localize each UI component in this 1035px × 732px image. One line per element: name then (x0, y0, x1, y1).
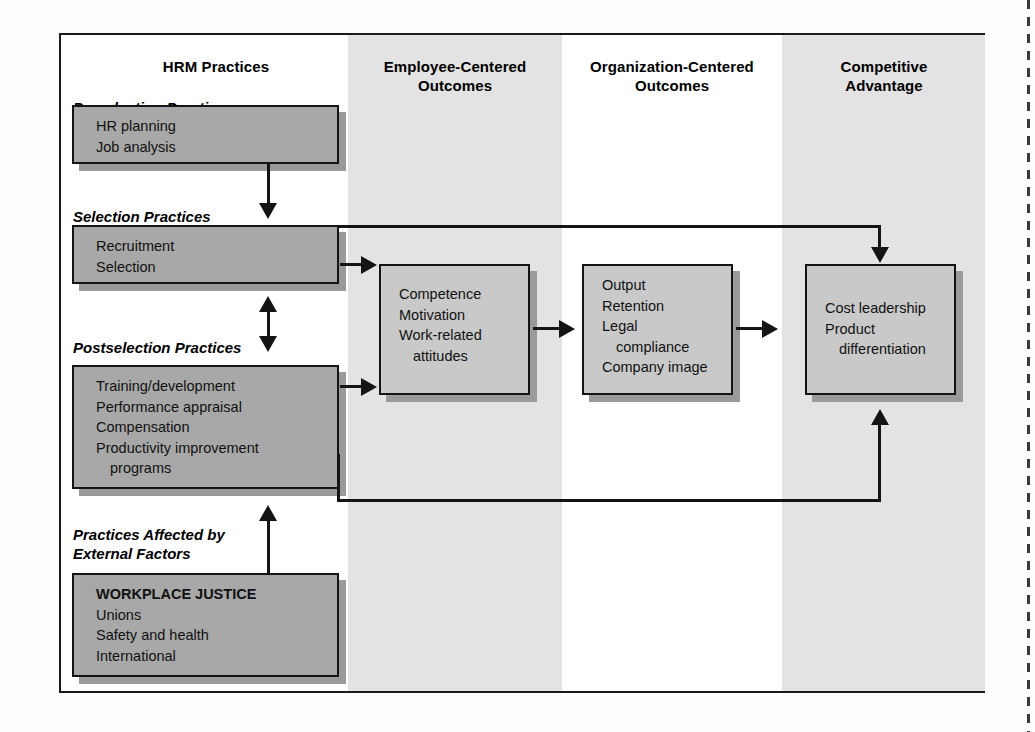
section-caption-selection: Selection Practices (73, 207, 211, 226)
column-heading-hrm: HRM Practices (91, 57, 341, 76)
column-heading-competitive-line2: Advantage (784, 76, 984, 95)
postselection-to-employee-arrowhead (361, 378, 377, 396)
organization-outcome-0: Output (602, 277, 646, 293)
column-heading-employee-line2: Outcomes (351, 76, 559, 95)
section-caption-postselection: Postselection Practices (73, 338, 241, 357)
preselection-to-selection-arrowhead (259, 203, 277, 219)
selection-item-1: Selection (96, 259, 156, 275)
employee-outcome-0: Competence (399, 286, 481, 302)
postselection-item-3: Productivity improvement (96, 440, 259, 456)
competitive-item-1: Product (825, 321, 875, 337)
postselection-to-competitive-up-line (878, 423, 881, 501)
postselection-to-competitive-bottom-line (337, 499, 881, 502)
postselection-item-1: Performance appraisal (96, 399, 242, 415)
selection-item-0: Recruitment (96, 238, 174, 254)
column-heading-employee: Employee-Centered Outcomes (351, 57, 559, 95)
organization-to-competitive-arrowhead (762, 320, 778, 338)
organization-outcome-3: compliance (602, 337, 725, 358)
organization-outcome-4: Company image (602, 359, 708, 375)
preselection-box[interactable]: HR planning Job analysis (72, 105, 339, 164)
section-caption-external: Practices Affected by External Factors (73, 525, 225, 563)
competitive-item-0: Cost leadership (825, 300, 926, 316)
selection-to-competitive-arrowhead (871, 247, 889, 263)
selection-to-employee-arrowhead (361, 256, 377, 274)
organization-outcome-1: Retention (602, 298, 664, 314)
external-item-0: Unions (96, 607, 141, 623)
organization-outcomes-box-text: Output Retention Legal compliance Compan… (602, 275, 725, 378)
employee-outcome-2: Work-related (399, 327, 482, 343)
postselection-to-competitive-down-line (337, 454, 340, 502)
external-to-postselection-arrowhead (259, 505, 277, 521)
external-item-1: Safety and health (96, 627, 209, 643)
organization-to-competitive-line (736, 327, 764, 330)
preselection-item-0: HR planning (96, 118, 176, 134)
postselection-item-4: programs (96, 458, 331, 479)
external-box-heading: WORKPLACE JUSTICE (96, 584, 331, 605)
external-item-2: International (96, 648, 176, 664)
employee-outcome-3: attitudes (399, 346, 522, 367)
competitive-item-2: differentiation (825, 339, 948, 360)
employee-outcomes-box[interactable]: Competence Motivation Work-related attit… (379, 264, 530, 395)
postselection-box-text: Training/development Performance apprais… (96, 376, 331, 479)
competitive-advantage-box-text: Cost leadership Product differentiation (825, 298, 948, 360)
selection-postselection-arrowhead-down (259, 336, 277, 352)
preselection-item-1: Job analysis (96, 139, 176, 155)
column-heading-organization-line1: Organization-Centered (564, 57, 780, 76)
column-heading-organization-line2: Outcomes (564, 76, 780, 95)
external-to-postselection-line (267, 519, 270, 573)
external-box-text: WORKPLACE JUSTICE Unions Safety and heal… (96, 584, 331, 666)
external-box[interactable]: WORKPLACE JUSTICE Unions Safety and heal… (72, 573, 339, 677)
preselection-box-text: HR planning Job analysis (96, 116, 331, 157)
competitive-advantage-box[interactable]: Cost leadership Product differentiation (805, 264, 956, 395)
selection-box-text: Recruitment Selection (96, 236, 331, 277)
organization-outcome-2: Legal (602, 318, 637, 334)
section-caption-external-line1: Practices Affected by (73, 525, 225, 544)
column-heading-employee-line1: Employee-Centered (351, 57, 559, 76)
scanned-page: HRM Practices Employee-Centered Outcomes… (0, 0, 1035, 732)
page-margin-dashed-guide (1027, 0, 1030, 732)
postselection-box[interactable]: Training/development Performance apprais… (72, 365, 339, 489)
column-heading-competitive: Competitive Advantage (784, 57, 984, 95)
column-heading-organization: Organization-Centered Outcomes (564, 57, 780, 95)
figure-frame: HRM Practices Employee-Centered Outcomes… (59, 33, 985, 693)
employee-outcomes-box-text: Competence Motivation Work-related attit… (399, 284, 522, 366)
section-caption-external-line2: External Factors (73, 544, 225, 563)
preselection-to-selection-line (267, 164, 270, 206)
employee-to-organization-arrowhead (559, 320, 575, 338)
selection-box[interactable]: Recruitment Selection (72, 225, 339, 284)
organization-outcomes-box[interactable]: Output Retention Legal compliance Compan… (582, 264, 733, 395)
postselection-to-competitive-arrowhead (871, 409, 889, 425)
employee-outcome-1: Motivation (399, 307, 465, 323)
postselection-item-0: Training/development (96, 378, 235, 394)
employee-to-organization-line (533, 327, 561, 330)
postselection-item-2: Compensation (96, 419, 190, 435)
selection-to-employee-line (340, 263, 362, 266)
selection-to-competitive-top-line (337, 225, 881, 228)
postselection-to-employee-line (340, 385, 362, 388)
column-heading-competitive-line1: Competitive (784, 57, 984, 76)
